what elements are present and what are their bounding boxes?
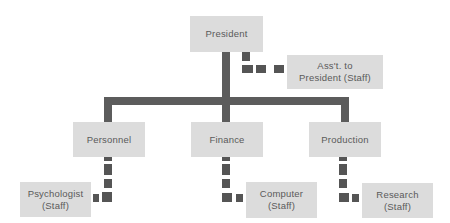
computer-label-line1: Computer	[260, 188, 303, 200]
finance-box: Finance	[191, 122, 263, 157]
personnel-box: Personnel	[73, 122, 145, 157]
asst-to-president-box: Ass't. to President (Staff)	[287, 55, 383, 89]
asst-label-line2: President (Staff)	[299, 72, 371, 84]
research-box: Research (Staff)	[362, 183, 433, 218]
psychologist-box: Psychologist (Staff)	[20, 182, 91, 217]
personnel-drop-connector	[104, 97, 112, 122]
research-label-line1: Research	[376, 189, 418, 201]
computer-box: Computer (Staff)	[246, 182, 317, 218]
computer-label-line2: (Staff)	[260, 200, 303, 212]
finance-label: Finance	[209, 134, 244, 146]
production-label: Production	[321, 134, 368, 146]
production-drop-connector	[341, 97, 349, 122]
psychologist-label-line1: Psychologist	[28, 188, 84, 200]
finance-drop-connector	[222, 97, 230, 122]
personnel-label: Personnel	[87, 134, 132, 146]
president-label: President	[206, 28, 248, 40]
production-box: Production	[309, 122, 381, 157]
asst-label-line1: Ass't. to	[299, 60, 371, 72]
psychologist-label-line2: (Staff)	[28, 200, 84, 212]
research-label-line2: (Staff)	[376, 201, 418, 213]
president-box: President	[190, 16, 263, 52]
